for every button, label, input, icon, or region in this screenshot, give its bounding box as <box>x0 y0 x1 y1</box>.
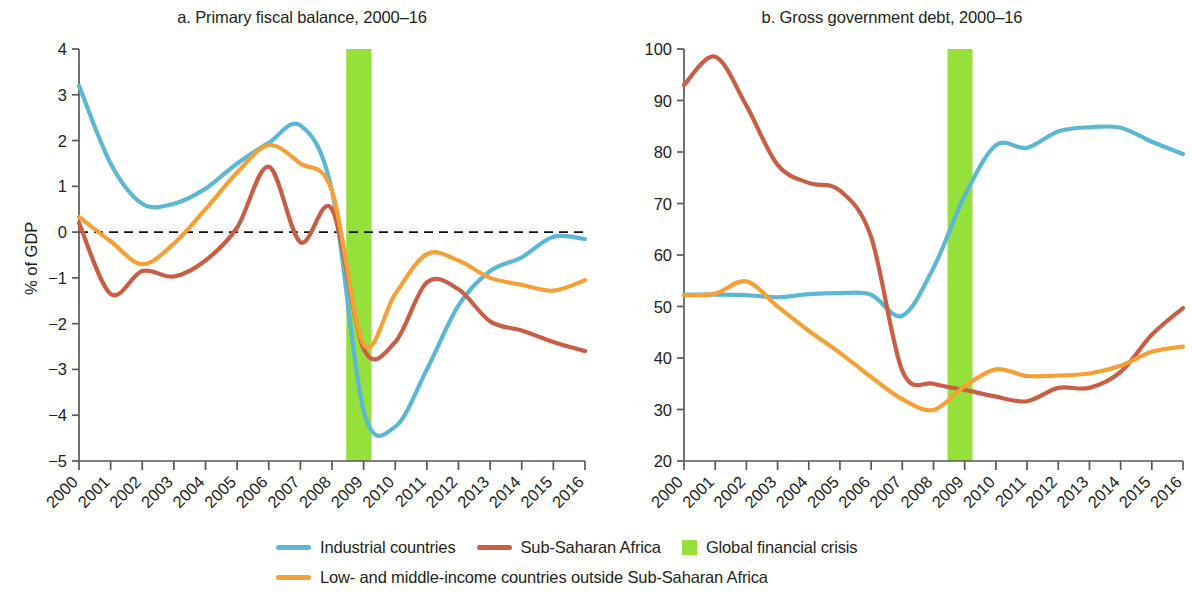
y-axis-tick-label: 90 <box>654 92 672 110</box>
x-axis-tick-label: 2008 <box>897 472 936 511</box>
x-axis-tick-label: 2000 <box>647 472 686 511</box>
legend-label-crisis: Global financial crisis <box>706 538 858 557</box>
legend-row-secondary: Low- and middle-income countries outside… <box>276 568 789 587</box>
figure-root: a. Primary fiscal balance, 2000–16 % of … <box>0 0 1192 595</box>
y-axis-tick-label: 80 <box>654 143 672 161</box>
y-axis-tick-label: 30 <box>654 401 672 419</box>
legend-item-industrial-countries: Industrial countries <box>276 538 456 557</box>
y-axis-tick-label: 2 <box>58 132 67 150</box>
legend-item-global-financial-crisis: Global financial crisis <box>682 538 858 557</box>
x-axis-tick-label: 2010 <box>959 472 998 511</box>
panel-b-plot: 1009080706050403020200020012002200320042… <box>600 0 1192 530</box>
legend-item-lmic-outside-ssa: Low- and middle-income countries outside… <box>276 568 768 587</box>
x-axis-tick-label: 2005 <box>201 472 240 511</box>
y-axis-tick-label: 4 <box>58 40 67 58</box>
y-axis-tick-label: −4 <box>48 406 67 424</box>
y-axis-tick-label: 20 <box>654 452 672 470</box>
y-axis-tick-label: 1 <box>58 177 67 195</box>
y-axis-tick-label: 0 <box>58 223 67 241</box>
series-line <box>684 281 1183 410</box>
x-axis-tick-label: 2009 <box>928 472 967 511</box>
x-axis-tick-label: 2015 <box>517 472 556 511</box>
y-axis-tick-label: 70 <box>654 195 672 213</box>
legend-line-swatch-ssa <box>477 545 512 550</box>
x-axis-tick-label: 2001 <box>74 472 113 511</box>
chart-legend: Industrial countries Sub-Saharan Africa … <box>0 534 1192 595</box>
legend-box-swatch-crisis <box>682 540 697 555</box>
x-axis-tick-label: 2000 <box>42 472 81 511</box>
x-axis-tick-label: 2010 <box>359 472 398 511</box>
x-axis-tick-label: 2016 <box>1146 472 1185 511</box>
x-axis-tick-label: 2002 <box>106 472 145 511</box>
series-line <box>684 56 1183 401</box>
x-axis-tick-label: 2007 <box>866 472 905 511</box>
y-axis-tick-label: 40 <box>654 349 672 367</box>
x-axis-tick-label: 2014 <box>1084 472 1123 511</box>
y-axis-tick-label: 100 <box>644 40 672 58</box>
x-axis-tick-label: 2003 <box>741 472 780 511</box>
panel-primary-fiscal-balance: a. Primary fiscal balance, 2000–16 % of … <box>0 0 600 530</box>
x-axis-tick-label: 2016 <box>548 472 587 511</box>
panel-gross-government-debt: b. Gross government debt, 2000–16 % of G… <box>600 0 1192 530</box>
x-axis-tick-label: 2015 <box>1115 472 1154 511</box>
y-axis-tick-label: −3 <box>48 360 67 378</box>
x-axis-tick-label: 2012 <box>1022 472 1061 511</box>
x-axis-tick-label: 2013 <box>454 472 493 511</box>
y-axis-tick-label: −1 <box>48 269 67 287</box>
x-axis-tick-label: 2005 <box>803 472 842 511</box>
x-axis-tick-label: 2002 <box>710 472 749 511</box>
x-axis-tick-label: 2013 <box>1053 472 1092 511</box>
crisis-band <box>346 49 371 461</box>
x-axis-tick-label: 2011 <box>391 472 429 510</box>
legend-line-swatch-lmic <box>276 575 311 580</box>
legend-item-sub-saharan-africa: Sub-Saharan Africa <box>477 538 661 557</box>
x-axis-tick-label: 2006 <box>232 472 271 511</box>
series-line <box>79 145 585 348</box>
x-axis-tick-label: 2014 <box>485 472 524 511</box>
y-axis-tick-label: 60 <box>654 246 672 264</box>
x-axis-tick-label: 2012 <box>422 472 461 511</box>
x-axis-tick-label: 2004 <box>169 472 208 511</box>
x-axis-tick-label: 2003 <box>137 472 176 511</box>
y-axis-tick-label: −5 <box>48 452 67 470</box>
panels-container: a. Primary fiscal balance, 2000–16 % of … <box>0 0 1192 530</box>
x-axis-tick-label: 2004 <box>772 472 811 511</box>
y-axis-tick-label: 3 <box>58 86 67 104</box>
x-axis-tick-label: 2007 <box>264 472 303 511</box>
x-axis-tick-label: 2009 <box>327 472 366 511</box>
x-axis-tick-label: 2006 <box>835 472 874 511</box>
legend-row-primary: Industrial countries Sub-Saharan Africa … <box>276 538 878 557</box>
panel-a-plot: 43210−1−2−3−4−52000200120022003200420052… <box>0 0 600 530</box>
x-axis-tick-label: 2001 <box>679 472 718 511</box>
legend-label-lmic: Low- and middle-income countries outside… <box>320 568 768 587</box>
y-axis-tick-label: 50 <box>654 298 672 316</box>
y-axis-tick-label: −2 <box>48 315 67 333</box>
legend-label-ssa: Sub-Saharan Africa <box>521 538 661 557</box>
legend-label-industrial: Industrial countries <box>320 538 456 557</box>
x-axis-tick-label: 2008 <box>295 472 334 511</box>
legend-line-swatch-industrial <box>276 545 311 550</box>
x-axis-tick-label: 2011 <box>991 472 1029 510</box>
